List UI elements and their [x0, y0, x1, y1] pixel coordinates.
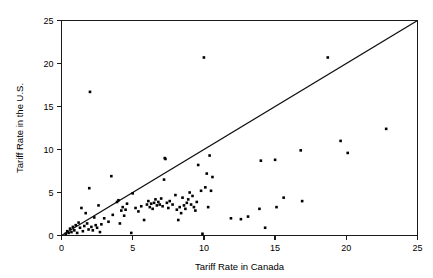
y-axis-title: Tariff Rate in the U.S. [14, 83, 25, 173]
data-point-marker [184, 208, 187, 211]
data-point-marker [193, 206, 196, 209]
data-point-marker [166, 202, 169, 205]
data-point-marker [205, 172, 208, 175]
data-point-marker [247, 215, 250, 218]
data-point-marker [111, 214, 114, 217]
scatter-chart-figure: 05101520250510152025Tariff Rate in Canad… [0, 0, 433, 278]
data-point-marker [70, 231, 73, 234]
data-point-marker [191, 195, 194, 198]
data-point-marker [103, 217, 106, 220]
data-point-marker [143, 219, 146, 222]
data-point-marker [176, 208, 179, 211]
x-tick-label: 25 [412, 243, 422, 253]
data-point-marker [130, 232, 133, 235]
data-point-marker [120, 209, 123, 212]
data-point-marker [96, 226, 99, 229]
data-point-marker [76, 232, 79, 235]
data-point-marker [72, 226, 75, 229]
data-point-marker [84, 212, 87, 215]
diagonal-reference-line [62, 21, 418, 236]
data-point-marker [121, 206, 124, 209]
data-point-marker [154, 198, 157, 201]
data-point-marker [82, 230, 85, 233]
data-point-marker [187, 198, 190, 201]
data-point-marker [107, 220, 110, 223]
data-point-marker [186, 202, 189, 205]
data-point-marker [80, 207, 83, 210]
x-tick-label: 15 [270, 243, 280, 253]
data-point-marker [100, 223, 103, 226]
data-point-marker [260, 159, 263, 162]
data-point-marker [93, 216, 96, 219]
data-point-marker [137, 210, 140, 213]
data-point-marker [67, 232, 70, 235]
data-point-marker [208, 154, 211, 157]
y-tick-label: 25 [43, 16, 53, 26]
data-point-marker [301, 200, 304, 203]
data-point-marker [275, 206, 278, 209]
y-tick-label: 0 [48, 231, 53, 241]
data-point-marker [73, 229, 76, 232]
data-point-marker [123, 214, 126, 217]
y-tick-label: 20 [43, 59, 53, 69]
plot-svg: 05101520250510152025Tariff Rate in Canad… [0, 0, 433, 278]
data-point-marker [207, 206, 210, 209]
data-point-marker [299, 149, 302, 152]
data-point-marker [156, 204, 159, 207]
data-points-group [64, 56, 387, 235]
data-point-marker [146, 203, 149, 206]
data-point-marker [119, 222, 122, 225]
y-tick-label: 15 [43, 102, 53, 112]
data-point-marker [134, 207, 137, 210]
data-point-marker [174, 194, 177, 197]
data-point-marker [177, 219, 180, 222]
data-point-marker [282, 196, 285, 199]
data-point-marker [230, 217, 233, 220]
data-point-marker [64, 232, 67, 235]
data-point-marker [126, 202, 129, 205]
data-point-marker [346, 152, 349, 155]
data-point-marker [197, 164, 200, 167]
data-point-marker [385, 128, 388, 131]
data-point-marker [97, 204, 100, 207]
data-point-marker [87, 228, 90, 231]
data-point-marker [157, 201, 160, 204]
data-point-marker [131, 192, 134, 195]
data-point-marker [158, 203, 161, 206]
data-point-marker [264, 226, 267, 229]
x-tick-label: 0 [59, 243, 64, 253]
data-point-marker [183, 204, 186, 207]
data-point-marker [150, 202, 153, 205]
data-point-marker [124, 208, 127, 211]
data-point-marker [200, 189, 203, 192]
data-point-marker [110, 175, 113, 178]
y-tick-label: 5 [48, 188, 53, 198]
data-point-marker [89, 91, 92, 94]
data-point-marker [326, 56, 329, 59]
data-point-marker [204, 186, 207, 189]
data-point-marker [92, 229, 95, 232]
data-point-marker [195, 201, 198, 204]
data-point-marker [203, 56, 206, 59]
data-point-marker [240, 218, 243, 221]
data-point-marker [83, 225, 86, 228]
data-point-marker [181, 196, 184, 199]
data-point-marker [194, 209, 197, 212]
data-point-marker [274, 159, 277, 162]
data-point-marker [161, 205, 164, 208]
x-tick-label: 20 [341, 243, 351, 253]
data-point-marker [164, 158, 167, 161]
x-axis-title: Tariff Rate in Canada [195, 261, 285, 272]
data-point-marker [74, 224, 77, 227]
data-point-marker [163, 178, 166, 181]
x-tick-label: 5 [130, 243, 135, 253]
data-point-marker [339, 140, 342, 143]
data-point-marker [160, 197, 163, 200]
data-point-marker [77, 221, 80, 224]
data-point-marker [211, 176, 214, 179]
data-point-marker [79, 226, 82, 229]
data-point-marker [171, 203, 174, 206]
data-point-marker [178, 206, 181, 209]
y-tick-label: 10 [43, 145, 53, 155]
data-point-marker [258, 208, 261, 211]
